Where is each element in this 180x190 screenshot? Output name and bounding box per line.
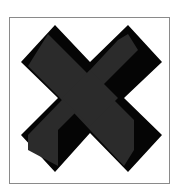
close-x-icon bbox=[0, 0, 180, 190]
